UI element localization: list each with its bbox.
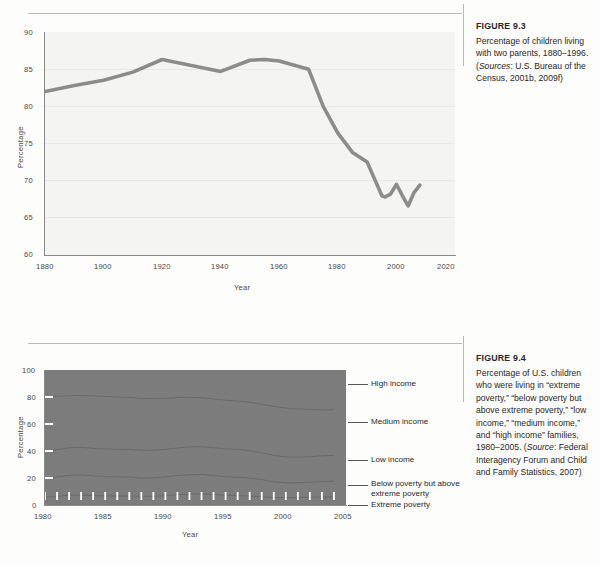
- chart1-ytick-75: 75: [24, 139, 33, 148]
- chart2-legend-label-high-income: High income: [371, 379, 416, 389]
- chart1-ytick-60: 60: [24, 250, 33, 259]
- chart2-ytick-40: 40: [27, 447, 36, 456]
- chart2-inner-ytick-40: [45, 450, 53, 452]
- chart2-y-axis-title: Percentage: [16, 416, 25, 458]
- chart1-x-axis-title: Year: [234, 283, 250, 292]
- figure-block-9-4: FIGURE 9.4Percentage of U.S. children wh…: [0, 330, 600, 565]
- chart2-inner-ytick-60: [45, 423, 53, 425]
- chart1-ytick-65: 65: [24, 213, 33, 222]
- chart1-xtick-1900: 1900: [94, 262, 112, 271]
- chart2-ytick-80: 80: [27, 393, 36, 402]
- chart2-plot-area: [45, 370, 346, 505]
- chart1-series-line: [45, 32, 455, 255]
- figure-block-9-3: FIGURE 9.3Percentage of children living …: [0, 0, 600, 330]
- chart2-x-axis-line: [44, 505, 347, 506]
- chart2-legend-leader-high-income: [348, 384, 368, 385]
- chart2-ytick-60: 60: [27, 420, 36, 429]
- chart2-ytick-0: 0: [32, 501, 36, 510]
- chart2-legend-leader-extreme-poverty: [348, 505, 368, 506]
- figure-caption-9-3: FIGURE 9.3Percentage of children living …: [476, 20, 594, 85]
- chart2-legend-label-low-income: Low income: [371, 455, 414, 465]
- chart2-x-axis-title: Year: [182, 530, 198, 539]
- figure-caption-9-4: FIGURE 9.4Percentage of U.S. children wh…: [476, 352, 594, 479]
- chart2-y-axis-line: [44, 370, 45, 506]
- chart2-legend-label-extreme-poverty: Extreme poverty: [371, 500, 430, 510]
- chart2-xtick-1990: 1990: [154, 512, 172, 521]
- chart2-legend-leader-medium-income: [348, 422, 368, 423]
- chart1-xtick-1960: 1960: [270, 262, 288, 271]
- figure-number: FIGURE 9.4: [476, 352, 594, 364]
- chart1-xtick-1880: 1880: [36, 262, 54, 271]
- chart2-ytick-100: 100: [22, 366, 35, 375]
- figure-caption-divider: [463, 4, 464, 66]
- chart2-area-bands: [45, 370, 346, 505]
- figure-caption-text-part1: Percentage of U.S. children who were liv…: [476, 368, 586, 452]
- chart2-xtick-2000: 2000: [274, 512, 292, 521]
- chart1-ytick-85: 85: [24, 65, 33, 74]
- chart2-legend-label-medium-income: Medium income: [371, 417, 428, 427]
- chart2-inner-ytick-20: [45, 477, 53, 479]
- chart2-xtick-1980: 1980: [34, 512, 52, 521]
- chart1-ytick-80: 80: [24, 102, 33, 111]
- figure-number: FIGURE 9.3: [476, 20, 594, 32]
- chart1-y-axis-line: [44, 32, 45, 256]
- figure-top-rule: [28, 13, 462, 14]
- chart1-plot-area: [45, 32, 455, 255]
- figure-caption-divider: [463, 336, 464, 402]
- chart2-xtick-1985: 1985: [94, 512, 112, 521]
- chart2-xtick-2005: 2005: [334, 512, 352, 521]
- figure-caption-source-label: Source: [527, 442, 554, 452]
- chart1-ytick-90: 90: [24, 28, 33, 37]
- chart2-ytick-20: 20: [27, 474, 36, 483]
- chart2-legend-leader-low-income: [348, 460, 368, 461]
- chart2-legend-leader-below-poverty: [348, 485, 368, 486]
- chart1-x-axis-line: [44, 255, 456, 256]
- figure-caption-source-label: Sources: [479, 61, 511, 71]
- chart1-xtick-1980: 1980: [328, 262, 346, 271]
- chart1-xtick-2020: 2020: [437, 262, 455, 271]
- chart1-xtick-2000: 2000: [387, 262, 405, 271]
- chart1-xtick-1920: 1920: [153, 262, 171, 271]
- chart1-ytick-70: 70: [24, 176, 33, 185]
- chart1-xtick-1940: 1940: [211, 262, 229, 271]
- chart2-legend-label-below-poverty: Below poverty but above extreme poverty: [371, 479, 466, 499]
- figure-top-rule: [28, 343, 462, 344]
- chart2-xtick-1995: 1995: [214, 512, 232, 521]
- chart2-inner-ytick-80: [45, 396, 53, 398]
